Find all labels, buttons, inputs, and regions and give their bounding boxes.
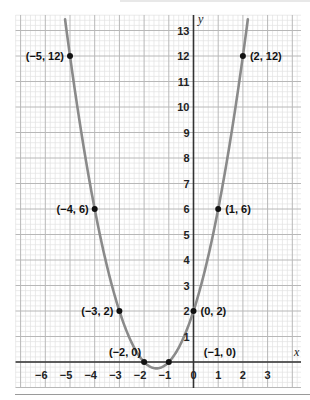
x-tick-label: −1 xyxy=(159,369,172,381)
x-tick-label: 3 xyxy=(265,369,271,381)
major-grid xyxy=(16,15,301,388)
y-tick-label: 2 xyxy=(183,305,189,317)
y-tick-label: 10 xyxy=(177,101,189,113)
data-point-label: (−5, 12) xyxy=(26,50,65,62)
x-tick-label: 1 xyxy=(215,369,221,381)
data-point-marker xyxy=(166,359,172,365)
y-axis-label: y xyxy=(197,12,204,26)
y-tick-label: 13 xyxy=(177,25,189,37)
y-tick-label: 9 xyxy=(183,127,189,139)
x-tick-label: −4 xyxy=(84,369,97,381)
y-tick-label: 3 xyxy=(183,280,189,292)
minor-grid xyxy=(16,15,301,388)
x-tick-label: −6 xyxy=(35,369,48,381)
y-tick-label: 11 xyxy=(178,76,190,88)
data-point-label: (1, 6) xyxy=(225,203,251,215)
y-tick-label: 6 xyxy=(183,203,189,215)
data-point-label: (−3, 2) xyxy=(81,305,113,317)
y-tick-label: 4 xyxy=(183,254,190,266)
data-point-label: (−1, 0) xyxy=(204,346,236,358)
y-tick-label: 1 xyxy=(183,331,189,343)
data-point-label: (−2, 0) xyxy=(109,346,141,358)
x-axis-label: x xyxy=(293,345,300,359)
data-point-marker xyxy=(92,206,98,212)
x-tick-label: 0 xyxy=(190,369,196,381)
data-point-marker xyxy=(191,308,197,314)
parabola-chart: −6−5−4−3−2−1012312345678910111213 (−5, 1… xyxy=(0,0,310,400)
data-point-marker xyxy=(240,53,246,59)
y-tick-label: 12 xyxy=(177,50,189,62)
axes xyxy=(16,15,301,388)
x-tick-label: −2 xyxy=(134,369,147,381)
y-tick-label: 5 xyxy=(183,229,189,241)
data-point-marker xyxy=(67,53,73,59)
y-tick-label: 8 xyxy=(183,152,189,164)
x-tick-label: −5 xyxy=(60,369,73,381)
y-tick-label: 7 xyxy=(183,178,189,190)
data-point-marker xyxy=(116,308,122,314)
x-tick-label: 2 xyxy=(240,369,246,381)
x-tick-label: −3 xyxy=(109,369,122,381)
data-point-label: (−4, 6) xyxy=(57,203,89,215)
data-point-label: (2, 12) xyxy=(250,50,282,62)
data-point-marker xyxy=(215,206,221,212)
data-point-label: (0, 2) xyxy=(201,305,227,317)
bottom-divider xyxy=(15,394,310,395)
data-point-marker xyxy=(141,359,147,365)
